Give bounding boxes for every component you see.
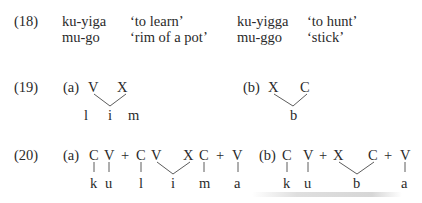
gloss: ‘to hunt’ — [307, 14, 357, 29]
gloss: ‘rim of a pot’ — [130, 30, 208, 45]
morpheme-boundary: + — [121, 148, 129, 163]
segment: b — [290, 108, 297, 123]
skeletal-slot: X — [117, 80, 127, 95]
segment: i — [171, 176, 175, 191]
segment: k — [90, 176, 97, 191]
example-number: (19) — [14, 80, 38, 95]
word: mu-go — [62, 30, 100, 45]
word: ku-yigga — [237, 14, 289, 29]
example-number: (18) — [14, 14, 38, 29]
skeletal-slot: C — [199, 148, 209, 163]
skeletal-slot: V — [303, 148, 313, 163]
segment: k — [283, 176, 290, 191]
skeletal-slot: V — [400, 148, 410, 163]
segment: m — [128, 108, 139, 123]
skeletal-slot: C — [300, 80, 310, 95]
segment: a — [401, 176, 407, 191]
skeletal-slot: X — [268, 80, 278, 95]
skeletal-slot: V — [104, 148, 114, 163]
segment: u — [105, 176, 112, 191]
segment: a — [234, 176, 240, 191]
word: ku-yiga — [62, 14, 106, 29]
skeletal-slot: C — [282, 148, 292, 163]
morpheme-boundary: + — [216, 148, 224, 163]
segment: m — [199, 176, 210, 191]
morpheme-boundary: + — [384, 148, 392, 163]
segment: b — [353, 176, 360, 191]
skeletal-slot: C — [368, 148, 378, 163]
gloss: ‘to learn’ — [130, 14, 184, 29]
example-number: (20) — [14, 148, 38, 163]
segment: l — [139, 176, 143, 191]
skeletal-slot: X — [183, 148, 193, 163]
segment: u — [304, 176, 311, 191]
skeletal-slot: C — [136, 148, 146, 163]
skeletal-slot: V — [88, 80, 98, 95]
sub-label-b: (b) — [243, 80, 260, 95]
scan-artifact — [252, 192, 402, 197]
skeletal-slot: X — [333, 148, 343, 163]
morpheme-boundary: + — [319, 148, 327, 163]
sub-label-a: (a) — [63, 148, 79, 163]
skeletal-slot: V — [232, 148, 242, 163]
gloss: ‘stick’ — [307, 30, 344, 45]
segment: l — [84, 108, 88, 123]
skeletal-slot: C — [89, 148, 99, 163]
segment: i — [108, 108, 112, 123]
sub-label-b: (b) — [259, 148, 276, 163]
skeletal-slot: V — [151, 148, 161, 163]
sub-label-a: (a) — [63, 80, 79, 95]
word: mu-ggo — [237, 30, 282, 45]
